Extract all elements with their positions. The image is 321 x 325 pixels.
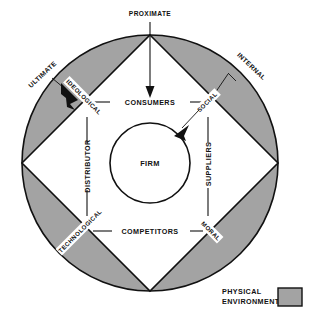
label-suppliers-group: SUPPLIERS	[204, 142, 213, 186]
legend-swatch	[278, 288, 302, 306]
environment-diagram: PROXIMATE ULTIMATE INTERNAL CONSUMERS CO…	[0, 0, 321, 325]
label-consumers: CONSUMERS	[125, 98, 175, 107]
proximate-arrow-head	[146, 86, 155, 98]
legend-label-line1: PHYSICAL	[222, 287, 262, 296]
social-to-firm-arrow-shaft	[182, 110, 199, 128]
legend: PHYSICAL ENVIRONMENT	[222, 287, 302, 306]
label-distributor-group: DISTRIBUTOR	[83, 139, 92, 193]
label-competitors: COMPETITORS	[122, 227, 179, 236]
label-distributor: DISTRIBUTOR	[83, 139, 92, 193]
label-firm: FIRM	[140, 159, 160, 168]
label-proximate: PROXIMATE	[129, 10, 172, 17]
label-suppliers: SUPPLIERS	[204, 142, 213, 186]
legend-label-line2: ENVIRONMENT	[222, 297, 280, 306]
diagram-canvas: PROXIMATE ULTIMATE INTERNAL CONSUMERS CO…	[0, 0, 321, 325]
